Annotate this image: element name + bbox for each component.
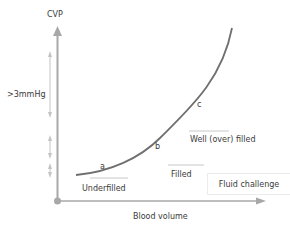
arrow-up-icon [48,135,52,141]
x-axis-arrowhead-icon [256,198,266,205]
fluid-challenge-label: Fluid challenge [219,180,280,189]
curve-point-a: a [100,162,105,172]
y-axis [53,26,62,201]
arrow-down-icon [48,153,52,159]
zone-well-filled: Well (over) filled [190,135,255,145]
arrow-down-icon [48,112,52,118]
x-axis-label: Blood volume [133,212,188,222]
threshold-label: >3mmHg [7,90,45,100]
arrow-up-icon [48,163,52,169]
origin-dot-icon [54,198,61,205]
curve-point-b: b [155,142,160,152]
arrow-up-icon [48,51,52,57]
fluid-challenge-box: Fluid challenge [207,173,290,195]
x-axis [57,198,266,205]
zone-underfilled: Underfilled [82,184,126,194]
starling-curve [76,28,232,175]
cvp-change-arrows [48,51,52,178]
y-axis-label: CVP [47,10,63,20]
curve-point-c: c [197,100,201,110]
y-axis-arrowhead-icon [53,26,62,36]
arrow-down-icon [48,172,52,178]
zone-filled: Filled [171,170,192,180]
